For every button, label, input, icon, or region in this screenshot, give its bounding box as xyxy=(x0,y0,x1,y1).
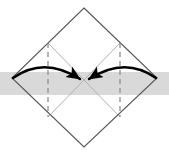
causal-diamond-figure xyxy=(0,0,169,154)
diagram-canvas xyxy=(0,0,169,154)
